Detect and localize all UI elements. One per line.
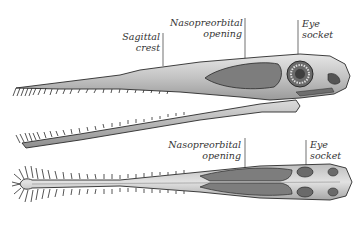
label-eye-socket-dorsal: Eye socket bbox=[310, 139, 350, 161]
label-line: Nasopreorbital bbox=[170, 17, 242, 28]
eye-socket-dorsal-right bbox=[297, 187, 313, 197]
label-line: Eye bbox=[302, 18, 342, 29]
label-line: Nasopreorbital bbox=[168, 139, 241, 150]
lower-jaw bbox=[16, 100, 300, 148]
label-eye-socket-lateral: Eye socket bbox=[302, 18, 342, 40]
label-nasopreorbital-opening-lateral: Nasopreorbital opening bbox=[170, 17, 242, 39]
label-line: socket bbox=[310, 150, 350, 161]
eye-socket-dorsal-left bbox=[297, 167, 313, 177]
label-sagittal-crest: Sagittal crest bbox=[100, 31, 160, 53]
label-text: Sagittal crest bbox=[122, 31, 160, 53]
label-line: opening bbox=[170, 28, 242, 39]
lower-teeth bbox=[16, 112, 184, 143]
nasopreorbital-opening-dorsal-left bbox=[200, 168, 292, 181]
label-nasopreorbital-opening-dorsal: Nasopreorbital opening bbox=[168, 139, 241, 161]
label-line: socket bbox=[302, 29, 342, 40]
label-line: opening bbox=[168, 150, 241, 161]
label-line: Eye bbox=[310, 139, 350, 150]
